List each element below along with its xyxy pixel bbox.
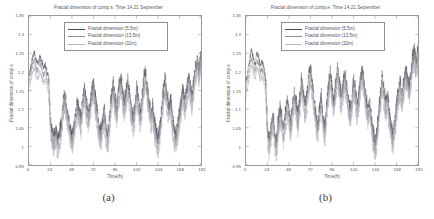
ytick-label: 1.2	[18, 69, 24, 74]
ytick-label: 1.1	[18, 107, 24, 112]
legend-entry: Fractal dimension (5.5m)	[285, 25, 381, 33]
series-line	[29, 66, 201, 158]
xtick-label: 24	[47, 167, 52, 173]
legend-label: Fractal dimension (13.5m)	[88, 33, 140, 39]
panel-b-title: Fractal dimension of comp.e: Time 14.21 …	[217, 5, 434, 11]
legend-label: Fractal dimension (5.5m)	[88, 26, 138, 32]
xtick-label: 96	[113, 167, 118, 173]
ytick-label: 1.25	[232, 50, 241, 55]
legend-label: Fractal dimension (32m)	[305, 41, 354, 47]
ytick-label: 1.25	[15, 50, 24, 55]
panel-b-xaxis-label: Time(h)	[245, 174, 419, 180]
ytick-label: 1.35	[232, 13, 241, 18]
legend-entry: Fractal dimension (5.5m)	[68, 25, 164, 33]
xtick-label: 168	[394, 167, 401, 173]
ytick-label: 1	[239, 145, 241, 150]
panel-a-legend: Fractal dimension (5.5m)Fractal dimensio…	[64, 22, 168, 51]
ytick-label: 1.35	[15, 13, 24, 18]
panel-a: Fractal dimension of comp.s: Time 14.21 …	[0, 0, 217, 219]
xtick-label: 48	[286, 167, 291, 173]
legend-label: Fractal dimension (5.5m)	[305, 26, 355, 32]
series-line	[246, 58, 418, 161]
series-line	[29, 59, 201, 151]
xtick-label: 0	[244, 167, 246, 173]
panel-b-caption: (b)	[217, 190, 434, 204]
panel-a-xaxis-label: Time(h)	[28, 174, 202, 180]
figure-container: Fractal dimension of comp.s: Time 14.21 …	[0, 0, 434, 219]
xtick-label: 120	[133, 167, 140, 173]
xtick-label: 48	[69, 167, 74, 173]
xtick-label: 192	[415, 167, 422, 173]
xtick-label: 24	[264, 167, 269, 173]
legend-line-icon	[285, 34, 302, 38]
xtick-label: 192	[198, 167, 205, 173]
legend-line-icon	[68, 27, 85, 31]
legend-entry: Fractal dimension (32m)	[68, 40, 164, 48]
ytick-label: 1	[22, 145, 24, 150]
legend-label: Fractal dimension (13.5m)	[305, 33, 357, 39]
ytick-label: 1.15	[15, 88, 24, 93]
ytick-label: 1.2	[235, 69, 241, 74]
panel-b-legend: Fractal dimension (5.5m)Fractal dimensio…	[281, 22, 385, 51]
ytick-label: 1.05	[15, 126, 24, 131]
legend-line-icon	[285, 42, 302, 46]
legend-line-icon	[285, 27, 302, 31]
xtick-label: 96	[330, 167, 335, 173]
ytick-label: 1.1	[235, 107, 241, 112]
panel-a-caption: (a)	[0, 190, 217, 204]
ytick-label: 1.3	[18, 31, 24, 36]
xtick-label: 120	[350, 167, 357, 173]
ytick-label: 1.05	[232, 126, 241, 131]
legend-line-icon	[68, 34, 85, 38]
ytick-label: 0.95	[232, 164, 241, 169]
xtick-label: 144	[372, 167, 379, 173]
panel-a-title: Fractal dimension of comp.s: Time 14.21 …	[0, 5, 217, 11]
xtick-label: 0	[27, 167, 29, 173]
legend-entry: Fractal dimension (13.5m)	[68, 33, 164, 41]
panel-b-yaxis-label: Fractal dimension of comp.e	[226, 43, 232, 143]
panel-b: Fractal dimension of comp.e: Time 14.21 …	[217, 0, 434, 219]
ytick-label: 0.95	[15, 164, 24, 169]
legend-line-icon	[68, 42, 85, 46]
panel-a-yaxis-label: Fractal dimension of comp.s	[9, 43, 15, 143]
xtick-label: 144	[155, 167, 162, 173]
legend-entry: Fractal dimension (13.5m)	[285, 33, 381, 41]
ytick-label: 1.3	[235, 31, 241, 36]
xtick-label: 72	[91, 167, 96, 173]
legend-entry: Fractal dimension (32m)	[285, 40, 381, 48]
xtick-label: 72	[308, 167, 313, 173]
ytick-label: 1.15	[232, 88, 241, 93]
legend-label: Fractal dimension (32m)	[88, 41, 137, 47]
series-line	[29, 51, 201, 144]
xtick-label: 168	[177, 167, 184, 173]
